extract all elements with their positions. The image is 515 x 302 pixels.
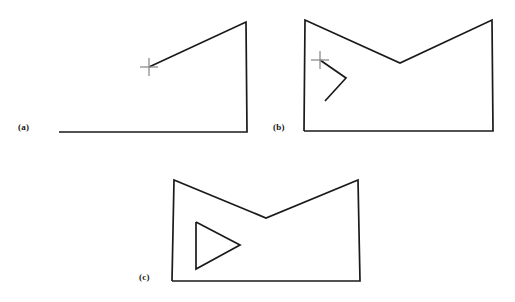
panel-b-inner-hole-partial xyxy=(320,60,346,101)
panel-b-crosshair-cursor xyxy=(311,51,329,69)
figure-container: (a) (b) (c) xyxy=(0,0,515,302)
panel-label-c: (c) xyxy=(139,273,150,282)
panel-c-inner-hole-triangle xyxy=(196,222,240,269)
panel-a-graphic xyxy=(59,22,247,132)
panel-label-b: (b) xyxy=(273,123,285,132)
figure-canvas xyxy=(0,0,515,302)
panel-c-graphic xyxy=(172,180,360,281)
panel-label-a: (a) xyxy=(18,123,29,132)
panel-a-polyline xyxy=(59,22,247,132)
panel-b-polyline xyxy=(304,20,493,131)
panel-b-graphic xyxy=(304,20,493,131)
panel-a-crosshair-cursor xyxy=(140,58,158,76)
